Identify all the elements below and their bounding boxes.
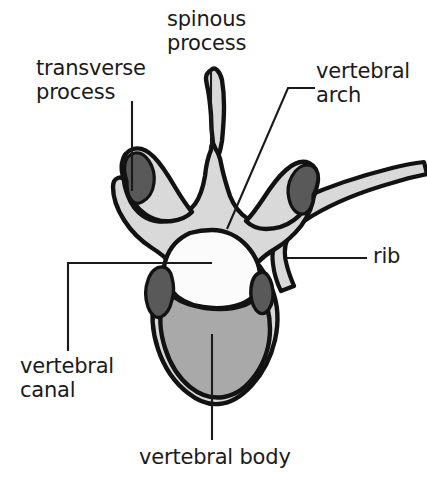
anatomy-figure: transverse process spinous process verte… — [0, 0, 427, 488]
facet-left-inferior — [146, 267, 174, 318]
vertebral-canal-opening — [164, 230, 260, 308]
label-vertebral-body: vertebral body — [139, 446, 291, 470]
facet-left-transverse — [125, 153, 155, 204]
label-transverse-process: transverse process — [36, 57, 146, 104]
label-vertebral-canal: vertebral canal — [20, 355, 114, 402]
label-rib: rib — [373, 245, 400, 269]
label-spinous-process: spinous process — [167, 8, 246, 55]
facet-right-inferior — [251, 272, 273, 314]
label-vertebral-arch: vertebral arch — [316, 60, 410, 107]
spinous-process — [206, 69, 224, 155]
